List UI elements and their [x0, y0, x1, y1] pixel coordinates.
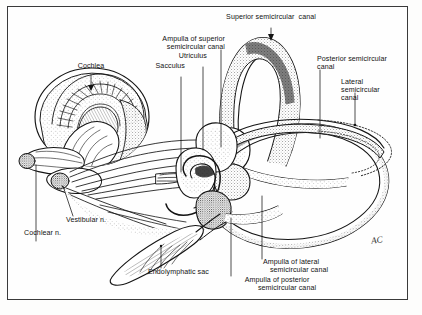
label-endolymphatic-sac: Endolymphatic sac	[148, 268, 240, 276]
label-ampulla-posterior-line2: semicircular canal	[226, 284, 348, 292]
artist-signature: AC	[370, 234, 383, 246]
label-cochlea: Cochlea	[52, 62, 130, 70]
label-sacculus: Sacculus	[120, 62, 185, 70]
label-posterior-canal-line1: Posterior semicircular	[317, 55, 417, 63]
label-ampulla-posterior-line1: Ampulla of posterior	[216, 276, 338, 284]
label-superior-canal: Superior semicircular canal	[206, 13, 336, 21]
label-ampulla-lateral-line1: Ampulla of lateral	[232, 258, 350, 266]
figure-page: Cochlea Ampulla of superior semicircular…	[0, 0, 422, 315]
label-lateral-canal-line2: semicircular	[341, 86, 417, 94]
label-ampulla-lateral-line2: semicircular canal	[240, 266, 358, 274]
label-vestibular-nerve: Vestibular n.	[66, 216, 156, 224]
label-ampulla-superior-line2: semicircular canal	[115, 43, 225, 51]
label-cochlear-nerve: Cochlear n.	[24, 229, 114, 237]
label-posterior-canal-line2: canal	[317, 63, 417, 71]
label-lateral-canal-line1: Lateral	[341, 78, 417, 86]
label-utriculus: Utriculus	[125, 52, 207, 60]
label-lateral-canal-line3: canal	[341, 94, 417, 102]
label-ampulla-superior-line1: Ampulla of superior	[115, 35, 225, 43]
